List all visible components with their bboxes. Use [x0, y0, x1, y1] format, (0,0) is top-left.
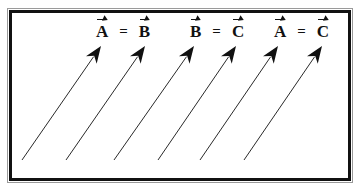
arrow-shaft — [244, 57, 315, 160]
arrow-shaft — [66, 57, 138, 160]
arrow-shaft — [114, 57, 187, 160]
arrowhead-icon — [179, 46, 194, 64]
arrow-shaft — [22, 57, 94, 160]
arrowhead-icon — [307, 46, 322, 64]
arrowhead-icon — [86, 46, 101, 64]
arrow-shaft — [200, 57, 271, 160]
arrowhead-icon — [221, 46, 236, 64]
arrow-group — [22, 46, 322, 160]
vector-arrows — [0, 0, 360, 188]
arrowhead-icon — [263, 46, 278, 64]
arrow-shaft — [158, 57, 229, 160]
arrowhead-icon — [130, 46, 145, 64]
